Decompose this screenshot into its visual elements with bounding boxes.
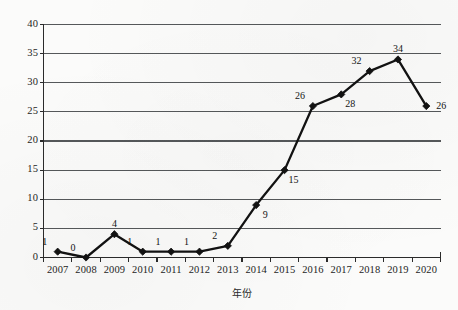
data-point-label: 28 (339, 98, 361, 109)
x-axis-tick-label: 2016 (297, 264, 329, 275)
data-point-label: 32 (346, 55, 368, 66)
x-axis-tick-label: 2020 (410, 264, 442, 275)
y-axis-tick-label: 35 (8, 47, 38, 58)
x-axis-tick-label: 2017 (325, 264, 357, 275)
y-axis-tick-label: 25 (8, 105, 38, 116)
data-point-label: 2 (204, 230, 226, 241)
data-point-label: 1 (119, 236, 141, 247)
data-point-markers (54, 56, 430, 261)
data-point-label: 34 (387, 43, 409, 54)
x-axis-tick-label: 2010 (127, 264, 159, 275)
x-axis-tick-label: 2012 (183, 264, 215, 275)
y-axis-tick-label: 40 (8, 18, 38, 29)
data-point-label: 26 (430, 100, 452, 111)
x-axis-tick-label: 2011 (155, 264, 187, 275)
data-point-label: 1 (147, 236, 169, 247)
x-axis-tick-label: 2018 (354, 264, 386, 275)
x-axis-title: 年份 (202, 285, 282, 300)
data-point-label: 0 (62, 242, 84, 253)
y-axis-tick-label: 0 (8, 251, 38, 262)
x-axis-tick-label: 2007 (42, 264, 74, 275)
data-point-label: 9 (254, 209, 276, 220)
y-axis-tick-label: 15 (8, 163, 38, 174)
x-axis-tick-label: 2008 (70, 264, 102, 275)
data-point-label: 26 (289, 90, 311, 101)
y-axis-tick-label: 30 (8, 76, 38, 87)
y-axis-tick-label: 20 (8, 134, 38, 145)
x-axis-tick-label: 2009 (98, 264, 130, 275)
line-chart: 0510152025303540 20072008200920102011201… (0, 0, 458, 310)
x-axis-tick-label: 2014 (240, 264, 272, 275)
y-axis-tick-label: 5 (8, 221, 38, 232)
gridlines (44, 25, 441, 229)
data-point-label: 1 (175, 236, 197, 247)
data-point-label: 15 (283, 174, 305, 185)
x-axis-tick-label: 2019 (382, 264, 414, 275)
y-axis-tick-label: 10 (8, 192, 38, 203)
data-point-label: 1 (34, 236, 56, 247)
data-point-label: 4 (103, 218, 125, 229)
x-axis-tick-label: 2013 (212, 264, 244, 275)
x-axis-tick-label: 2015 (269, 264, 301, 275)
